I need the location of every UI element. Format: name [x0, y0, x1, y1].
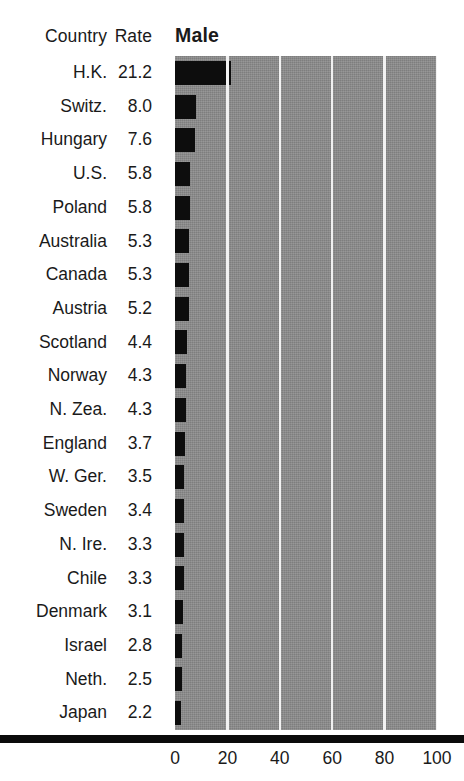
table-row: Neth.2.5: [0, 663, 175, 697]
table-row: U.S.5.8: [0, 157, 175, 191]
x-tick-label: 60: [302, 748, 362, 769]
country-label: Japan: [0, 696, 107, 730]
rate-value: 4.3: [111, 359, 152, 393]
country-label: Poland: [0, 191, 107, 225]
country-label: Israel: [0, 629, 107, 663]
table-row: England3.7: [0, 427, 175, 461]
bar: [175, 634, 182, 658]
bar: [175, 398, 186, 422]
rate-value: 21.2: [111, 56, 152, 90]
table-row: Hungary7.6: [0, 123, 175, 157]
table-row: Norway4.3: [0, 359, 175, 393]
table-row: Sweden3.4: [0, 494, 175, 528]
table-row: H.K.21.2: [0, 56, 175, 90]
bar: [175, 432, 185, 456]
country-label: Sweden: [0, 494, 107, 528]
rate-value: 3.4: [111, 494, 152, 528]
rate-value: 3.3: [111, 562, 152, 596]
x-tick-label: 100: [407, 748, 464, 769]
bar: [175, 533, 184, 557]
table-row: Scotland4.4: [0, 326, 175, 360]
rate-value: 2.2: [111, 696, 152, 730]
rate-value: 5.8: [111, 157, 152, 191]
table-row: Switz.8.0: [0, 90, 175, 124]
bar: [175, 566, 184, 590]
table-row: Japan2.2: [0, 696, 175, 730]
country-label: Norway: [0, 359, 107, 393]
country-label: Austria: [0, 292, 107, 326]
rate-value: 4.4: [111, 326, 152, 360]
rate-value: 2.8: [111, 629, 152, 663]
table-row: Austria5.2: [0, 292, 175, 326]
rate-value: 3.3: [111, 528, 152, 562]
country-label: H.K.: [0, 56, 107, 90]
country-label: Hungary: [0, 123, 107, 157]
gridline: [436, 56, 437, 730]
country-label: U.S.: [0, 157, 107, 191]
horizontal-bar-chart: Country Rate Male H.K.21.2Switz.8.0Hunga…: [0, 0, 464, 781]
rate-value: 5.3: [111, 258, 152, 292]
table-row: Chile3.3: [0, 562, 175, 596]
table-row: Israel2.8: [0, 629, 175, 663]
bar: [175, 196, 190, 220]
rate-column-header: Rate: [111, 26, 152, 47]
chart-title: Male: [175, 24, 219, 47]
table-row: N. Zea.4.3: [0, 393, 175, 427]
bar: [175, 667, 182, 691]
country-label: W. Ger.: [0, 460, 107, 494]
x-axis-tick-labels: 020406080100: [0, 748, 464, 774]
x-tick-label: 20: [197, 748, 257, 769]
rate-value: 5.2: [111, 292, 152, 326]
gridline: [226, 56, 229, 730]
bar: [175, 229, 189, 253]
table-row: W. Ger.3.5: [0, 460, 175, 494]
table-row: Denmark3.1: [0, 595, 175, 629]
country-column-header: Country: [0, 26, 107, 47]
country-label: Scotland: [0, 326, 107, 360]
country-label: N. Zea.: [0, 393, 107, 427]
rate-value: 5.3: [111, 225, 152, 259]
axis-rule: [0, 735, 464, 743]
country-label: Denmark: [0, 595, 107, 629]
bar: [175, 128, 195, 152]
rate-value: 3.7: [111, 427, 152, 461]
plot-area: [175, 56, 437, 730]
x-tick-label: 40: [250, 748, 310, 769]
bar: [175, 600, 183, 624]
x-tick-label: 80: [355, 748, 415, 769]
plot-texture: [175, 56, 437, 730]
table-header: Country Rate Male: [0, 26, 464, 54]
bar: [175, 330, 187, 354]
bar: [175, 701, 181, 725]
rate-value: 4.3: [111, 393, 152, 427]
bar: [175, 162, 190, 186]
rate-value: 7.6: [111, 123, 152, 157]
bar: [175, 263, 189, 287]
rate-value: 3.5: [111, 460, 152, 494]
rate-value: 5.8: [111, 191, 152, 225]
country-label: Australia: [0, 225, 107, 259]
table-row: N. Ire.3.3: [0, 528, 175, 562]
bar: [175, 95, 196, 119]
x-tick-label: 0: [145, 748, 205, 769]
table-row: Canada5.3: [0, 258, 175, 292]
bar: [175, 61, 231, 85]
gridline: [279, 56, 282, 730]
bar: [175, 297, 189, 321]
bar: [175, 499, 184, 523]
rate-value: 3.1: [111, 595, 152, 629]
gridline: [331, 56, 334, 730]
country-label: Chile: [0, 562, 107, 596]
table-row: Australia5.3: [0, 225, 175, 259]
bar: [175, 364, 186, 388]
category-label-list: H.K.21.2Switz.8.0Hungary7.6U.S.5.8Poland…: [0, 56, 175, 730]
table-row: Poland5.8: [0, 191, 175, 225]
rate-value: 2.5: [111, 663, 152, 697]
country-label: England: [0, 427, 107, 461]
country-label: Canada: [0, 258, 107, 292]
bar: [175, 465, 184, 489]
rate-value: 8.0: [111, 90, 152, 124]
country-label: N. Ire.: [0, 528, 107, 562]
country-label: Neth.: [0, 663, 107, 697]
country-label: Switz.: [0, 90, 107, 124]
